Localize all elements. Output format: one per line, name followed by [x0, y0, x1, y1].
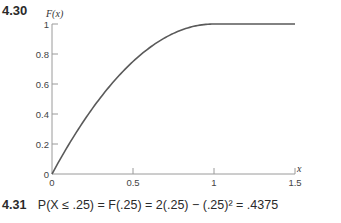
series-line-F — [52, 24, 295, 174]
probability-equation: P(X ≤ .25) = F(.25) = 2(.25) − (.25)² = … — [38, 198, 278, 212]
y-axis-label: F(x) — [45, 8, 64, 20]
y-tick-label: 0.4 — [36, 109, 49, 120]
y-tick-label: 0.2 — [36, 139, 49, 150]
y-tick-label: 0 — [44, 169, 49, 180]
x-tick-label: 1.5 — [288, 177, 301, 188]
x-tick-label: 0.5 — [126, 177, 139, 188]
x-tick-label: 1 — [211, 177, 216, 188]
y-tick-label: 0.6 — [36, 79, 49, 90]
axes — [52, 24, 295, 174]
y-tick-label: 0.8 — [36, 49, 49, 60]
data-points — [52, 24, 295, 174]
x-axis-label: x — [296, 163, 302, 174]
tick-labels: 00.20.40.60.8100.511.5 — [36, 19, 302, 189]
problem-number-4-31: 4.31 — [2, 198, 26, 212]
problem-4-31: 4.31 P(X ≤ .25) = F(.25) = 2(.25) − (.25… — [2, 198, 278, 212]
ticks — [52, 24, 295, 174]
y-tick-label: 1 — [44, 19, 49, 30]
x-tick-label: 0 — [49, 177, 54, 188]
cdf-chart: 00.20.40.60.8100.511.5 F(x) x — [0, 0, 341, 195]
